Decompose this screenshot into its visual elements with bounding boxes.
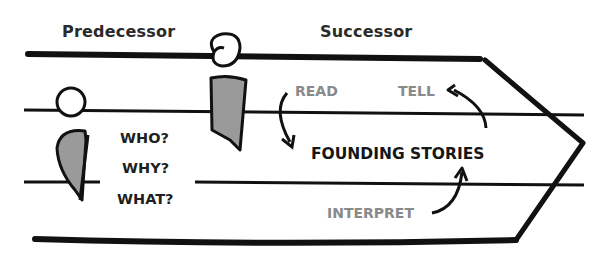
bottom-border-line bbox=[35, 239, 516, 243]
action-interpret: INTERPRET bbox=[327, 205, 414, 221]
arrow-head-outline bbox=[485, 60, 583, 240]
lower-thin-line-right bbox=[195, 182, 584, 185]
successor-heading: Successor bbox=[320, 22, 412, 41]
read-arrow-icon bbox=[280, 93, 294, 147]
successor-figure-icon bbox=[211, 34, 246, 150]
interpret-arrow-icon bbox=[432, 168, 467, 213]
predecessor-heading: Predecessor bbox=[62, 22, 175, 41]
action-read: READ bbox=[295, 83, 338, 99]
founding-stories-label: FOUNDING STORIES bbox=[311, 145, 484, 163]
top-border-line bbox=[28, 54, 480, 59]
action-tell: TELL bbox=[398, 83, 435, 99]
tell-arrow-icon bbox=[448, 85, 486, 128]
question-why: WHY? bbox=[122, 160, 169, 176]
question-who: WHO? bbox=[120, 130, 169, 146]
question-what: WHAT? bbox=[117, 191, 174, 207]
upper-thin-line bbox=[24, 110, 584, 115]
